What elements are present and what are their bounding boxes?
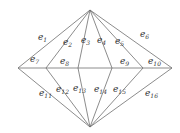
edge-e15: [90, 68, 143, 127]
edge-e14: [90, 68, 112, 127]
edge-label-e10: e10: [148, 56, 161, 67]
edge-label-e7: e7: [30, 54, 39, 65]
edge-layer: [18, 10, 172, 127]
edge-label-e9: e9: [120, 56, 129, 67]
edge-label-e15: e15: [113, 84, 126, 95]
edge-label-e6: e6: [140, 29, 149, 40]
edge-label-e1: e1: [38, 32, 47, 43]
edge-e11: [18, 68, 90, 127]
edge-label-e8: e8: [60, 56, 69, 67]
edge-label-e2: e2: [63, 37, 72, 48]
edge-label-e12: e12: [56, 84, 69, 95]
edge-label-e5: e5: [115, 36, 124, 47]
edge-label-e3: e3: [81, 35, 90, 46]
edge-label-e11: e11: [39, 88, 52, 99]
label-layer: e1e2e3e4e5e6e7e8e9e10e11e12e13e14e15e16: [30, 29, 161, 99]
edge-label-e16: e16: [145, 88, 158, 99]
edge-e16: [90, 68, 172, 127]
graph-diagram: e1e2e3e4e5e6e7e8e9e10e11e12e13e14e15e16: [0, 0, 180, 133]
edge-label-e13: e13: [73, 83, 86, 94]
edge-e1: [18, 10, 90, 68]
edge-label-e4: e4: [97, 35, 106, 46]
edge-e12: [46, 68, 90, 127]
